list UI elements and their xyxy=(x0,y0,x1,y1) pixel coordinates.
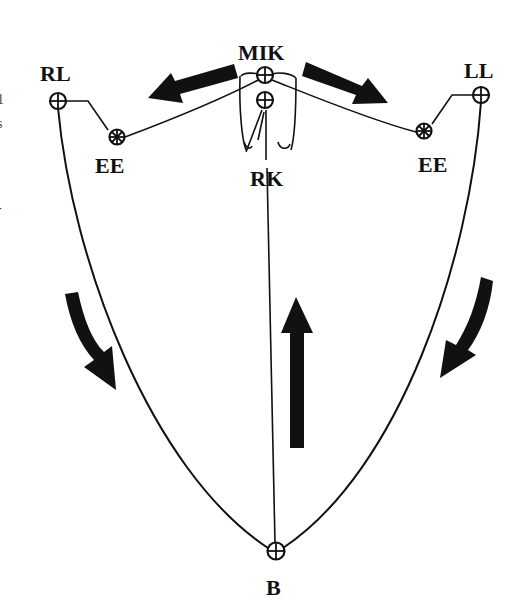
arrow-lower-left-curved-icon xyxy=(65,292,116,390)
measurement-diagram: 1 s - xyxy=(0,0,517,611)
label-mik: MIK xyxy=(238,40,284,65)
edge-fragment-1: 1 xyxy=(0,92,4,107)
marker-ee-right xyxy=(110,130,125,145)
line-rl-ee xyxy=(66,101,108,130)
edge-fragment-3: - xyxy=(0,200,2,215)
label-rl: RL xyxy=(40,61,71,86)
marker-ll xyxy=(473,87,489,103)
curve-ll-to-b xyxy=(283,102,481,548)
label-b: B xyxy=(266,575,281,600)
label-rk: RK xyxy=(250,166,283,191)
marker-ee-left xyxy=(417,124,432,139)
edge-fragment-2: s xyxy=(0,116,2,131)
curve-rl-to-b xyxy=(58,108,268,548)
label-ll: LL xyxy=(464,58,493,83)
arrow-center-up-icon xyxy=(281,297,313,448)
arrow-lower-right-curved-icon xyxy=(440,277,493,378)
marker-b xyxy=(268,543,285,560)
line-rk-to-b xyxy=(267,168,275,543)
marker-rl xyxy=(50,93,66,109)
line-ll-ee xyxy=(432,95,473,124)
marker-rk xyxy=(257,92,273,108)
label-ee-right: EE xyxy=(95,153,124,178)
marker-mik xyxy=(257,67,273,83)
label-ee-left: EE xyxy=(418,152,447,177)
